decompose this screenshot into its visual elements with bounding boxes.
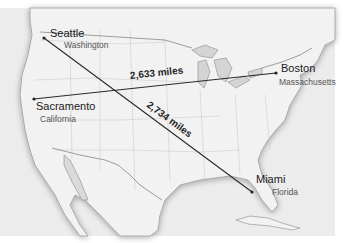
city-label-boston: Boston bbox=[281, 62, 315, 74]
city-dot-miami bbox=[250, 190, 253, 193]
city-label-miami: Miami bbox=[256, 173, 285, 185]
state-label-california: California bbox=[40, 114, 76, 124]
city-dot-boston bbox=[274, 71, 277, 74]
city-label-sacramento: Sacramento bbox=[36, 100, 95, 112]
state-label-massachusetts: Massachusetts bbox=[279, 77, 336, 87]
city-dot-seattle bbox=[42, 36, 45, 39]
state-label-florida: Florida bbox=[272, 187, 298, 197]
city-label-seattle: Seattle bbox=[50, 27, 84, 39]
state-label-washington: Washington bbox=[64, 40, 109, 50]
